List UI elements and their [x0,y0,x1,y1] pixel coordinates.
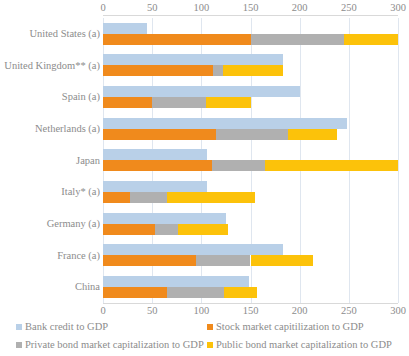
bar-segment-1 [103,160,212,171]
x-tick-label-50: 50 [147,305,158,317]
bar-stacked [103,287,257,298]
chart-row [103,208,398,240]
bar-segment-3 [265,160,398,171]
x-tick-label-250: 250 [341,305,357,317]
axis-line [103,15,398,16]
legend-item[interactable]: Bank credit to GDP [16,320,108,333]
bar-segment-1 [103,192,130,203]
x-tick-label-200: 200 [292,305,308,317]
legend-label: Stock market capitilization to GDP [216,320,364,333]
x-tick-label-0: 0 [100,305,105,317]
bar-stacked [103,224,228,235]
chart-row [103,271,398,303]
chart-row [103,81,398,113]
bar-segment-3 [251,255,314,266]
bar-segment-2 [196,255,250,266]
category-label: Spain (a) [62,91,100,103]
axis-line [103,303,398,304]
legend-item[interactable]: Public bond market capitalization to GDP [207,338,392,351]
category-label: Japan [76,155,100,167]
bar-bank-credit [103,23,147,34]
top-axis: 050100150200250300 [103,2,398,16]
bar-segment-2 [251,34,344,45]
chart-row [103,145,398,177]
bar-stacked [103,34,398,45]
x-tick-label-300: 300 [390,2,406,14]
financial-structure-bar-chart: 050100150200250300 050100150200250300 Ba… [0,0,409,356]
bar-stacked [103,255,313,266]
legend-swatch-icon [16,342,22,348]
bar-segment-3 [167,192,256,203]
legend-swatch-icon [207,342,213,348]
bar-segment-3 [206,97,250,108]
legend-item[interactable]: Stock market capitilization to GDP [207,320,364,333]
bar-segment-2 [213,65,223,76]
bar-segment-2 [167,287,224,298]
category-label: United Kingdom** (a) [4,60,100,72]
bar-bank-credit [103,149,207,160]
bar-segment-3 [344,34,398,45]
legend-label: Private bond market capitalization to GD… [25,338,204,351]
bar-segment-1 [103,65,213,76]
x-tick-label-100: 100 [193,2,209,14]
category-label: Germany (a) [47,218,100,230]
gridline-300 [398,18,399,303]
bar-segment-1 [103,287,167,298]
bar-bank-credit [103,118,347,129]
legend-swatch-icon [207,324,213,330]
bar-segment-1 [103,129,216,140]
bar-stacked [103,129,337,140]
category-label: China [75,281,100,293]
bar-segment-1 [103,97,152,108]
x-tick-label-0: 0 [100,2,105,14]
bar-segment-1 [103,34,251,45]
plot-area [103,18,398,303]
x-tick-label-50: 50 [147,2,158,14]
bar-segment-2 [155,224,178,235]
legend-item[interactable]: Private bond market capitalization to GD… [16,338,204,351]
x-tick-label-200: 200 [292,2,308,14]
bar-stacked [103,97,251,108]
category-label: Netherlands (a) [35,123,100,135]
category-label: Italy* (a) [61,186,100,198]
x-tick-label-150: 150 [243,305,259,317]
chart-row [103,18,398,50]
bar-segment-3 [178,224,228,235]
chart-row [103,50,398,82]
x-tick-label-150: 150 [243,2,259,14]
bar-bank-credit [103,54,283,65]
chart-row [103,176,398,208]
legend-swatch-icon [16,324,22,330]
bar-bank-credit [103,86,300,97]
bar-bank-credit [103,213,226,224]
bar-segment-3 [223,65,283,76]
bar-segment-1 [103,255,196,266]
bar-segment-2 [130,192,167,203]
bar-bank-credit [103,181,207,192]
bar-bank-credit [103,276,249,287]
legend-label: Public bond market capitalization to GDP [216,338,392,351]
bar-segment-3 [224,287,257,298]
bar-bank-credit [103,244,283,255]
x-tick-label-300: 300 [390,305,406,317]
legend-label: Bank credit to GDP [25,320,108,333]
bar-stacked [103,192,255,203]
bar-segment-2 [216,129,288,140]
x-tick-label-100: 100 [193,305,209,317]
bar-stacked [103,65,283,76]
x-tick-label-250: 250 [341,2,357,14]
category-label: France (a) [57,250,100,262]
bottom-axis: 050100150200250300 [103,303,398,317]
chart-row [103,240,398,272]
bar-segment-3 [288,129,337,140]
bar-segment-1 [103,224,155,235]
category-label: United States (a) [29,28,100,40]
bar-segment-2 [212,160,265,171]
bar-segment-2 [152,97,206,108]
chart-row [103,113,398,145]
chart-legend: Bank credit to GDPStock market capitiliz… [0,320,409,356]
bar-stacked [103,160,398,171]
